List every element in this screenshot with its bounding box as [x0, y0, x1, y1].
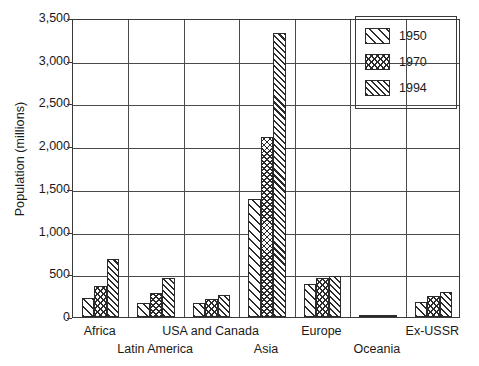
legend-label: 1970 [399, 56, 427, 69]
y-axis-tick-label: 3,500 [0, 11, 80, 25]
bar-usa-and-canada-1994 [218, 295, 231, 317]
y-axis-tick-label: 1,000 [0, 225, 80, 239]
x-axis-label-latin-america: Latin America [117, 342, 193, 356]
bar-asia-1970 [261, 137, 274, 317]
x-axis-label-europe: Europe [301, 324, 341, 338]
group-separator [350, 20, 351, 317]
legend-swatch-1950-icon [365, 28, 390, 44]
bar-oceania-1950 [359, 315, 372, 317]
bar-africa-1970 [94, 286, 107, 317]
group-separator [295, 20, 296, 317]
group-separator [184, 20, 185, 317]
bar-latin-america-1994 [162, 278, 175, 317]
y-axis-tick-label: 3,000 [0, 54, 80, 68]
group-separator [128, 20, 129, 317]
y-axis-tick-label: 2,500 [0, 96, 80, 110]
x-axis-label-oceania: Oceania [354, 342, 401, 356]
y-axis-tick-mark [67, 318, 72, 319]
x-axis-label-asia: Asia [254, 342, 278, 356]
legend-item: 1970 [356, 49, 456, 75]
bar-oceania-1994 [384, 315, 397, 317]
legend-label: 1950 [399, 30, 427, 43]
bar-ex-ussr-1994 [440, 292, 453, 317]
legend-swatch-1994-icon [365, 80, 390, 96]
bar-ex-ussr-1950 [415, 302, 428, 317]
bar-usa-and-canada-1950 [193, 303, 206, 317]
group-separator [239, 20, 240, 317]
bar-africa-1950 [82, 298, 95, 317]
bar-europe-1950 [304, 284, 317, 317]
bar-africa-1994 [107, 259, 120, 317]
legend-item: 1950 [356, 23, 456, 49]
y-axis-tick-label: 500 [0, 267, 80, 281]
x-axis-label-africa: Africa [84, 324, 116, 338]
legend-swatch-1970-icon [365, 54, 390, 70]
y-axis-tick-label: 2,000 [0, 139, 80, 153]
bar-asia-1950 [248, 199, 261, 317]
bar-europe-1994 [329, 276, 342, 317]
population-bar-chart: Population (millions) 05001,0001,5002,00… [0, 0, 479, 366]
y-axis-tick-label: 1,500 [0, 182, 80, 196]
bar-usa-and-canada-1970 [205, 299, 218, 317]
bar-oceania-1970 [372, 315, 385, 317]
legend-item: 1994 [356, 75, 456, 101]
bar-latin-america-1950 [137, 303, 150, 317]
chart-legend: 1950 1970 1994 [355, 16, 457, 109]
x-axis-label-usa-and-canada: USA and Canada [162, 324, 259, 338]
legend-label: 1994 [399, 82, 427, 95]
bar-europe-1970 [316, 278, 329, 317]
bar-ex-ussr-1970 [427, 296, 440, 317]
bar-latin-america-1970 [150, 293, 163, 317]
x-axis-label-ex-ussr: Ex-USSR [406, 324, 459, 338]
bar-asia-1994 [273, 33, 286, 317]
y-axis-tick-label: 0 [0, 310, 80, 324]
